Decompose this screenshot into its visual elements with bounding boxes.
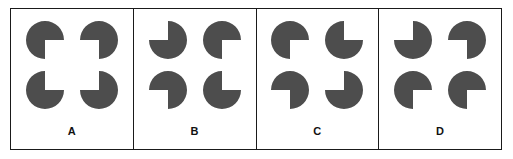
pacman-top-right-icon <box>80 21 118 59</box>
pacman-bottom-right-icon <box>448 71 486 109</box>
panel-label: A <box>11 125 133 137</box>
panel-label: C <box>257 125 379 137</box>
pacman-bottom-right-icon <box>203 71 241 109</box>
stimulus-group <box>394 21 486 109</box>
pacman-bottom-left-icon <box>271 71 309 109</box>
panel-label: B <box>134 125 256 137</box>
panel-label: D <box>379 125 501 137</box>
stimulus-group <box>271 21 363 109</box>
pacman-bottom-left-icon <box>149 71 187 109</box>
pacman-top-right-icon <box>203 21 241 59</box>
pacman-bottom-left-icon <box>394 71 432 109</box>
panel-c[interactable]: C <box>257 9 380 149</box>
kanizsa-figure-panels: ABCD <box>0 0 513 159</box>
pacman-bottom-right-icon <box>325 71 363 109</box>
pacman-top-right-icon <box>325 21 363 59</box>
panel-b[interactable]: B <box>134 9 257 149</box>
pacman-bottom-right-icon <box>80 71 118 109</box>
stimulus-group <box>149 21 241 109</box>
stimulus-group <box>26 21 118 109</box>
pacman-top-left-icon <box>271 21 309 59</box>
panel-a[interactable]: A <box>11 9 134 149</box>
pacman-top-right-icon <box>448 21 486 59</box>
panel-row: ABCD <box>10 8 502 150</box>
pacman-top-left-icon <box>149 21 187 59</box>
pacman-top-left-icon <box>26 21 64 59</box>
panel-d[interactable]: D <box>379 9 501 149</box>
pacman-top-left-icon <box>394 21 432 59</box>
pacman-bottom-left-icon <box>26 71 64 109</box>
